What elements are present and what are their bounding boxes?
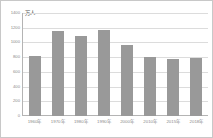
bar-slot — [162, 13, 185, 116]
bar-slot — [185, 13, 208, 116]
bar-slot — [23, 13, 46, 116]
bar-slot — [69, 13, 92, 116]
x-axis-tick-label: 2018年 — [190, 119, 204, 125]
y-axis-tick-label: 0 — [2, 114, 20, 118]
bar — [121, 45, 133, 116]
bar-slot — [139, 13, 162, 116]
bar — [167, 59, 179, 116]
x-axis-tick-label: 1990年 — [97, 119, 111, 125]
y-axis-tick-label: 1200 — [2, 26, 20, 30]
bars-layer — [23, 13, 208, 116]
y-axis-tick-label: 600 — [2, 70, 20, 74]
bar-chart: 万人 0200400600800100012001400 1960年1970年1… — [0, 0, 213, 138]
y-axis-tick-label: 1000 — [2, 40, 20, 44]
x-axis-tick-label: 1960年 — [28, 119, 42, 125]
x-axis-tick-labels: 1960年1970年1980年1990年2000年2010年2015年2018年 — [23, 119, 208, 131]
x-axis-tick-label: 2010年 — [143, 119, 157, 125]
y-axis-tick-label: 800 — [2, 55, 20, 59]
bar — [190, 58, 202, 116]
y-axis-tick-label: 1400 — [2, 11, 20, 15]
bar — [98, 30, 110, 116]
x-axis-tick-label: 2015年 — [166, 119, 180, 125]
bar-slot — [46, 13, 69, 116]
bar-slot — [116, 13, 139, 116]
x-axis-tick-label: 1980年 — [74, 119, 88, 125]
bar — [75, 36, 87, 116]
bar — [52, 31, 64, 116]
bar — [29, 56, 41, 116]
y-axis-tick-label: 200 — [2, 99, 20, 103]
y-axis-tick-label: 400 — [2, 84, 20, 88]
x-axis-tick-label: 1970年 — [51, 119, 65, 125]
bar — [144, 57, 156, 116]
x-axis-tick-label: 2000年 — [120, 119, 134, 125]
bar-slot — [92, 13, 115, 116]
y-axis-tick-labels: 0200400600800100012001400 — [1, 13, 20, 116]
